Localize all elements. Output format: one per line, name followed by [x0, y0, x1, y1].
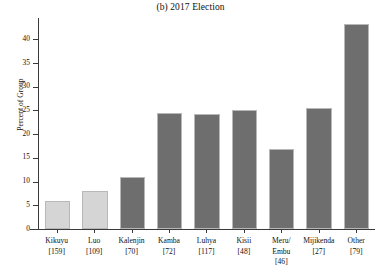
y-tick: 10 [33, 182, 38, 183]
x-tick-label-count: [117] [188, 247, 225, 258]
x-tick-label: Luo[109] [75, 236, 112, 268]
x-tick [169, 229, 170, 233]
y-tick-label: 30 [23, 81, 30, 90]
y-tick-label: 15 [23, 152, 30, 161]
x-tick-label-name: Luhya [188, 236, 225, 247]
x-tick-label-name: Kikuyu [38, 236, 75, 247]
x-tick-label-name: Luo [75, 236, 112, 247]
x-axis-labels: Kikuyu[159]Luo[109]Kalenjin[70]Kamba[72]… [38, 236, 375, 268]
x-tick [132, 229, 133, 233]
y-tick: 40 [33, 39, 38, 40]
bar-slot [114, 18, 151, 229]
x-tick-label-count: [72] [150, 247, 187, 258]
x-tick-label: Meru/ Embu[46] [263, 236, 300, 268]
y-tick-label: 40 [23, 34, 30, 43]
bar [120, 177, 145, 229]
x-tick-label-name: Meru/ Embu [263, 236, 300, 257]
x-tick [57, 229, 58, 233]
y-tick: 25 [33, 110, 38, 111]
x-tick-label-name: Other [338, 236, 375, 247]
x-tick-label: Kisii[48] [225, 236, 262, 268]
x-tick-slot [225, 229, 262, 234]
x-tick-label: Mijikenda[27] [300, 236, 337, 268]
x-tick [319, 229, 320, 233]
x-tick-label: Luhya[117] [188, 236, 225, 268]
x-tick-label: Other[79] [338, 236, 375, 268]
plot-area: 0510152025303540 [38, 18, 375, 229]
bar-slot [226, 18, 263, 229]
x-tick-label-count: [27] [300, 247, 337, 258]
y-tick: 20 [33, 134, 38, 135]
bar [194, 114, 219, 229]
x-tick-label-count: [159] [38, 247, 75, 258]
bar [82, 191, 107, 229]
x-tick-label-count: [48] [225, 247, 262, 258]
y-tick: 5 [33, 205, 38, 206]
y-tick: 30 [33, 87, 38, 88]
x-tick-label-count: [46] [263, 257, 300, 268]
x-tick-slot [263, 229, 300, 234]
bar-slot [338, 18, 375, 229]
bar-series [39, 18, 375, 229]
bar-slot [39, 18, 76, 229]
x-tick-label-count: [70] [113, 247, 150, 258]
x-tick [244, 229, 245, 233]
x-tick-slot [188, 229, 225, 234]
x-tick-slot [113, 229, 150, 234]
x-tick-label-name: Kisii [225, 236, 262, 247]
chart-title: (b) 2017 Election [0, 2, 381, 12]
bar [306, 108, 331, 229]
bar [344, 24, 369, 229]
y-tick-label: 0 [26, 224, 30, 233]
bar [269, 149, 294, 229]
x-tick-label-count: [109] [75, 247, 112, 258]
x-tick [281, 229, 282, 233]
y-tick-label: 20 [23, 129, 30, 138]
y-tick: 35 [33, 63, 38, 64]
x-tick [356, 229, 357, 233]
x-tick-label-name: Mijikenda [300, 236, 337, 247]
y-tick-label: 5 [26, 200, 30, 209]
x-tick-label-name: Kamba [150, 236, 187, 247]
bar-slot [151, 18, 188, 229]
bar [232, 110, 257, 229]
y-tick-label: 25 [23, 105, 30, 114]
x-tick-label-count: [79] [338, 247, 375, 258]
bar-slot [188, 18, 225, 229]
x-tick-slot [150, 229, 187, 234]
bar [157, 113, 182, 229]
bar-slot [76, 18, 113, 229]
x-tick-slot [38, 229, 75, 234]
y-tick: 15 [33, 158, 38, 159]
bar-slot [300, 18, 337, 229]
bar [45, 201, 70, 229]
x-axis-ticks [38, 229, 375, 234]
x-tick [206, 229, 207, 233]
x-tick-label-name: Kalenjin [113, 236, 150, 247]
bar-chart-figure: (b) 2017 Election Percent of Group 05101… [0, 0, 381, 280]
x-tick-slot [300, 229, 337, 234]
x-tick-label: Kamba[72] [150, 236, 187, 268]
x-tick-label: Kalenjin[70] [113, 236, 150, 268]
bar-slot [263, 18, 300, 229]
x-tick-label: Kikuyu[159] [38, 236, 75, 268]
x-tick-slot [75, 229, 112, 234]
y-tick-label: 10 [23, 176, 30, 185]
y-tick-label: 35 [23, 58, 30, 67]
x-tick [94, 229, 95, 233]
x-tick-slot [338, 229, 375, 234]
